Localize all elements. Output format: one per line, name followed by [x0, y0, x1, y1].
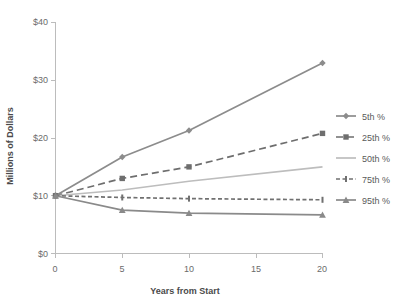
data-point — [320, 131, 325, 136]
series-line — [56, 167, 323, 196]
legend-label: 50th % — [362, 154, 390, 164]
legend-label: 5th % — [362, 112, 385, 122]
legend-marker-icon — [345, 176, 347, 182]
legend-label: 25th % — [362, 133, 390, 143]
legend-item-95th[interactable]: 95th % — [336, 196, 390, 206]
legend-item-25th[interactable]: 25th % — [336, 133, 390, 143]
series-5th — [52, 60, 325, 199]
y-tick-label-20: $20 — [33, 133, 48, 143]
x-tick-label-5: 5 — [119, 264, 124, 274]
legend-label: 95th % — [362, 196, 390, 206]
x-tick-label-0: 0 — [52, 264, 57, 274]
x-tick-label-20: 20 — [317, 264, 327, 274]
data-point — [322, 197, 324, 203]
series-layer — [52, 60, 326, 218]
legend-item-50th[interactable]: 50th % — [336, 154, 390, 164]
chart-legend: 5th %25th %50th %75th %95th % — [336, 112, 390, 206]
y-tick-label-0: $0 — [38, 249, 48, 259]
x-tick-label-10: 10 — [184, 264, 194, 274]
y-tick-label-40: $40 — [33, 17, 48, 27]
data-point — [186, 127, 192, 133]
line-chart: Millions of Dollars Years from Start $40… — [0, 0, 401, 301]
data-point — [120, 176, 125, 181]
data-point — [319, 60, 325, 66]
legend-marker-icon — [343, 134, 348, 139]
series-50th — [56, 167, 323, 196]
legend-item-5th[interactable]: 5th % — [336, 112, 385, 122]
legend-label: 75th % — [362, 175, 390, 185]
legend-marker-icon — [343, 113, 349, 119]
x-axis-title: Years from Start — [150, 286, 220, 296]
series-25th — [53, 131, 325, 199]
y-tick-label-30: $30 — [33, 75, 48, 85]
x-tick-label-15: 15 — [251, 264, 261, 274]
chart-container: Millions of Dollars Years from Start $40… — [0, 0, 401, 301]
data-point — [186, 164, 191, 169]
y-axis-title: Millions of Dollars — [5, 107, 15, 185]
data-point — [121, 194, 123, 200]
y-tick-label-10: $10 — [33, 191, 48, 201]
legend-item-75th[interactable]: 75th % — [336, 175, 390, 185]
data-point — [188, 196, 190, 202]
series-75th — [55, 193, 324, 203]
